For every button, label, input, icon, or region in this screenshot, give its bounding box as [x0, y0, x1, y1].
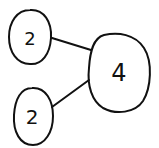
connector-top	[52, 38, 91, 50]
whole-circle: 4	[89, 34, 150, 112]
number-bond-diagram: 2 2 4	[0, 0, 159, 148]
part-circle-bottom: 2	[14, 88, 53, 145]
connector-bottom	[52, 80, 89, 107]
part-top-label: 2	[24, 28, 35, 49]
part-bottom-label: 2	[26, 105, 39, 129]
whole-label: 4	[111, 59, 126, 87]
part-circle-top: 2	[9, 10, 51, 64]
